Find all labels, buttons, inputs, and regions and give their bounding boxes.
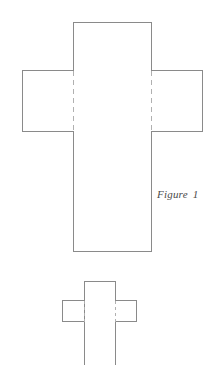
large-net-outline: [23, 23, 203, 252]
large-cross-net: [23, 23, 203, 252]
figure-caption-word: Figure: [157, 188, 188, 200]
figure-caption: Figure1: [157, 189, 198, 200]
small-net-outline: [63, 282, 137, 365]
cross-net-diagram: [0, 0, 218, 365]
figure-caption-number: 1: [193, 188, 199, 200]
small-cross-net: [63, 282, 137, 365]
